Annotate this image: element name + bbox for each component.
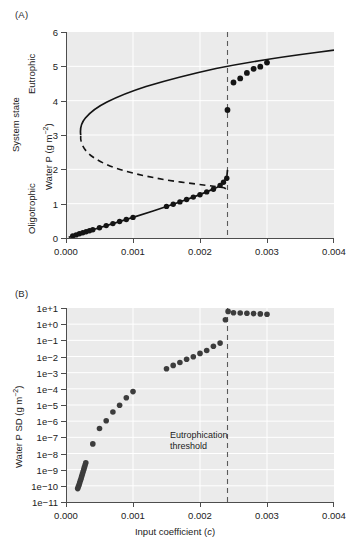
upper-stable-branch — [80, 50, 334, 135]
panel-a-xtick-4: 0.004 — [322, 246, 346, 257]
panel-b-x-axis-title: Input coefficient (c) — [135, 526, 215, 537]
annotation-line-2: threshold — [170, 441, 228, 452]
panel-b-gridlines — [66, 308, 334, 502]
panel-a: (A) System state Eutrophic Oligotrophic … — [0, 0, 350, 278]
panel-a-plot-area — [66, 32, 334, 238]
panel-b-ytick-9: 1e−8 — [18, 448, 58, 459]
panel-b-ytick-3: 1e−2 — [18, 351, 58, 362]
annotation-line-1: Eutrophication — [170, 430, 228, 441]
panel-a-xtick-3: 0.003 — [255, 246, 279, 257]
panel-b-ytick-11: 1e−10 — [14, 480, 58, 491]
eutrophication-threshold-annotation: Eutrophication threshold — [170, 430, 228, 452]
panel-b-ytick-0: 1e+1 — [18, 303, 58, 314]
panel-a-ytick-2: 2 — [40, 164, 58, 175]
panel-b-xtick-1: 0.001 — [121, 510, 145, 521]
panel-a-y-axis — [66, 32, 67, 238]
panel-b-y-axis — [66, 308, 67, 502]
panel-b-ytick-8: 1e−7 — [18, 432, 58, 443]
panel-a-ytick-0: 0 — [40, 233, 58, 244]
x-axis-title-suffix: ) — [212, 526, 215, 537]
panel-a-ytick-3: 3 — [40, 130, 58, 141]
panel-b: (B) Water P SD (g m−2) — [0, 278, 350, 555]
panel-b-ytick-12: 1e−11 — [14, 497, 58, 508]
panel-a-ytick-5: 5 — [40, 61, 58, 72]
panel-a-gridlines — [66, 32, 334, 238]
panel-a-outer-y-label: System state — [10, 97, 21, 152]
panel-a-xtick-0: 0.000 — [54, 246, 78, 257]
panel-a-oligotrophic-markers — [70, 176, 230, 239]
panel-b-sd-markers — [75, 309, 270, 492]
panel-a-ytick-6: 6 — [40, 27, 58, 38]
panel-b-xtick-0: 0.000 — [54, 510, 78, 521]
panel-b-ytick-5: 1e−4 — [18, 383, 58, 394]
panel-b-ytick-2: 1e−1 — [18, 335, 58, 346]
panel-b-ytick-4: 1e−3 — [18, 367, 58, 378]
panel-a-ytick-1: 1 — [40, 198, 58, 209]
panel-b-ytick-1: 1e+0 — [18, 319, 58, 330]
panel-b-ytick-7: 1e−6 — [18, 416, 58, 427]
panel-a-label: (A) — [15, 9, 28, 20]
x-axis-title-prefix: Input coefficient ( — [135, 526, 207, 537]
panel-b-ytick-10: 1e−9 — [18, 464, 58, 475]
state-label-oligotrophic: Oligotrophic — [26, 183, 37, 234]
panel-a-svg — [66, 32, 334, 238]
panel-a-xtick-1: 0.001 — [121, 246, 145, 257]
unstable-branch — [81, 136, 228, 190]
panel-b-label: (B) — [15, 288, 28, 299]
panel-a-eutrophic-markers — [225, 60, 270, 113]
panel-b-svg — [66, 308, 334, 502]
state-label-eutrophic: Eutrophic — [26, 54, 37, 94]
panel-b-ytick-6: 1e−5 — [18, 400, 58, 411]
panel-b-xtick-4: 0.004 — [322, 510, 346, 521]
panel-a-xtick-2: 0.002 — [188, 246, 212, 257]
panel-b-xtick-3: 0.003 — [255, 510, 279, 521]
panel-b-xtick-2: 0.002 — [188, 510, 212, 521]
panel-b-plot-area — [66, 308, 334, 502]
panel-a-ytick-4: 4 — [40, 95, 58, 106]
